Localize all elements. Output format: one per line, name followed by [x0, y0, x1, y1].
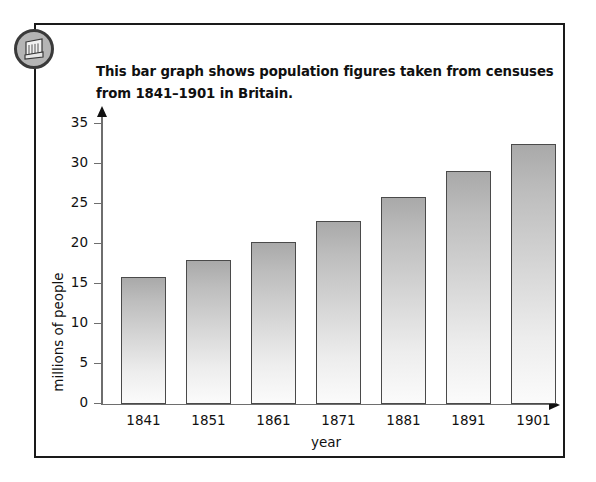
y-tick-25: 25: [94, 203, 102, 205]
bar-1861: [251, 242, 296, 404]
y-tick-label-25: 25: [71, 194, 88, 210]
book-graph-icon: [21, 36, 47, 62]
x-label-1851: 1851: [186, 412, 231, 428]
bar-1841: [121, 277, 166, 404]
y-tick-20: 20: [94, 243, 102, 245]
y-axis-title: millions of people: [50, 232, 66, 432]
y-tick-label-15: 15: [71, 274, 88, 290]
x-label-1841: 1841: [121, 412, 166, 428]
x-label-1891: 1891: [446, 412, 491, 428]
y-tick-label-0: 0: [79, 394, 88, 410]
x-label-1871: 1871: [316, 412, 361, 428]
bar-1881: [381, 197, 426, 404]
x-label-1881: 1881: [381, 412, 426, 428]
bar-1871: [316, 221, 361, 404]
y-tick-15: 15: [94, 283, 102, 285]
book-graph-badge-icon: [14, 29, 54, 69]
y-tick-label-30: 30: [71, 154, 88, 170]
bar-1901: [511, 144, 556, 404]
y-tick-30: 30: [94, 163, 102, 165]
x-label-1861: 1861: [251, 412, 296, 428]
y-tick-35: 35: [94, 123, 102, 125]
bar-chart: 05101520253035 1841185118611871188118911…: [36, 25, 567, 460]
y-axis-arrow-icon: [97, 106, 107, 117]
bar-1851: [186, 260, 231, 404]
worksheet-frame: This bar graph shows population figures …: [34, 23, 565, 458]
bar-1891: [446, 171, 491, 404]
y-tick-label-10: 10: [71, 314, 88, 330]
x-label-1901: 1901: [511, 412, 556, 428]
y-tick-label-5: 5: [79, 354, 88, 370]
y-tick-0: 0: [94, 403, 102, 405]
y-axis-line: [101, 112, 103, 404]
y-tick-label-20: 20: [71, 234, 88, 250]
x-axis-title: year: [101, 434, 551, 450]
y-tick-label-35: 35: [71, 114, 88, 130]
y-tick-5: 5: [94, 363, 102, 365]
y-tick-10: 10: [94, 323, 102, 325]
